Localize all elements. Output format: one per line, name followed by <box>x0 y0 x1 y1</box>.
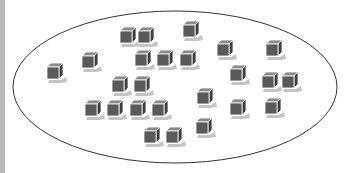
cube-icon <box>183 21 203 41</box>
cube-icon <box>152 100 172 120</box>
cube-icon <box>120 27 140 47</box>
cube-icon <box>144 127 164 147</box>
cube-icon <box>230 99 250 119</box>
cube-icon <box>282 72 302 92</box>
cube-icon <box>138 27 158 47</box>
cube-icon <box>266 40 286 60</box>
cube-icon <box>196 118 216 138</box>
cube-icon <box>157 50 177 70</box>
cube-icon <box>180 50 200 70</box>
cube-icon <box>166 127 186 147</box>
cube-group <box>47 21 302 147</box>
cube-icon <box>134 76 154 96</box>
cube-icon <box>230 65 250 85</box>
cube-icon <box>82 52 102 72</box>
cube-icon <box>130 100 150 120</box>
cube-icon <box>112 76 132 96</box>
cube-icon <box>47 63 67 83</box>
cube-icon <box>107 100 127 120</box>
set-diagram <box>0 0 349 173</box>
cube-icon <box>262 72 282 92</box>
cube-icon <box>265 98 285 118</box>
cube-icon <box>85 100 105 120</box>
cube-icon <box>197 88 217 108</box>
cube-icon <box>217 40 237 60</box>
cube-icon <box>135 50 155 70</box>
